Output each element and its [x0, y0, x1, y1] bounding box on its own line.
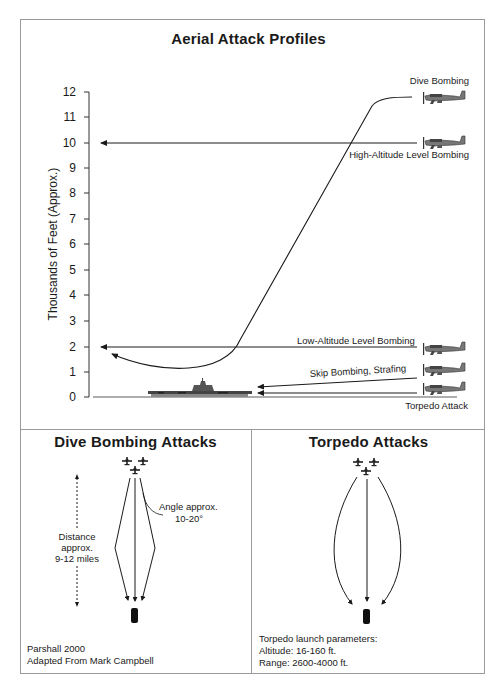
profile-label-torpedo: Torpedo Attack [405, 400, 468, 411]
target-ship-icon [131, 608, 138, 623]
target-ship-icon [363, 609, 370, 624]
aircraft-icon [423, 342, 465, 355]
torpedo-panel-title: Torpedo Attacks [252, 433, 485, 450]
distance-line1: Distance [40, 531, 114, 542]
angle-note-line2: 10-20° [175, 513, 203, 524]
profile-label-dive-bombing: Dive Bombing [410, 75, 469, 86]
torpedo-params-line3: Range: 2600-4000 ft. [259, 657, 348, 668]
plane-formation-icon [353, 458, 363, 466]
angle-note-line1: Angle approx. [159, 501, 218, 512]
profile-label-low-altitude: Low-Altitude Level Bombing [297, 335, 415, 346]
torpedo-params-line1: Torpedo launch parameters: [259, 633, 377, 644]
plane-formation-icon [369, 458, 379, 466]
plane-formation-icon [122, 457, 132, 465]
attack-profiles-drawing [0, 0, 497, 691]
plane-formation-icon [138, 457, 148, 465]
aircraft-icon [423, 382, 465, 395]
aircraft-icon [423, 91, 465, 104]
plane-formation-icon [130, 466, 140, 474]
credit-line2: Adapted From Mark Campbell [27, 655, 154, 666]
aircraft-icon [423, 136, 465, 149]
distance-line2: approx. [40, 542, 114, 553]
profile-label-high-altitude: High-Altitude Level Bombing [349, 149, 469, 160]
aircraft-carrier-icon [148, 378, 252, 397]
aircraft-icon [423, 363, 465, 376]
torpedo-params-line2: Altitude: 16-160 ft. [259, 645, 336, 656]
dive-panel-title: Dive Bombing Attacks [20, 433, 251, 450]
plane-formation-icon [361, 467, 371, 475]
y-axis [84, 92, 89, 397]
distance-line3: 9-12 miles [40, 553, 114, 564]
credit-line1: Parshall 2000 [27, 643, 85, 654]
